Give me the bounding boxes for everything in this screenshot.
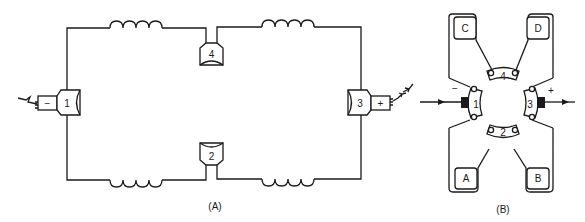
coil-bottom-right <box>262 179 314 186</box>
brush-b-3-contact <box>537 97 545 108</box>
caption-a: (A) <box>208 201 221 212</box>
brush-b-2: 2 <box>487 125 519 138</box>
output-arrow-head <box>562 99 569 105</box>
coil-top-left <box>110 21 162 28</box>
wire-bottom-left <box>67 115 110 180</box>
panel-a: 4 2 − 1 3 + (A) <box>18 20 406 212</box>
terminal-a: A <box>449 120 489 192</box>
commutator <box>483 83 523 123</box>
terminal-a-label: A <box>463 173 470 184</box>
brush-4-label: 4 <box>209 49 215 60</box>
input-arrow-head <box>438 99 445 105</box>
brush-b-3-label: 3 <box>527 99 533 110</box>
wire-to-brush2-left <box>162 165 206 180</box>
wire-bottom-right <box>314 113 361 179</box>
terminal-c-label: C <box>461 23 468 34</box>
coil-top-right <box>262 20 314 27</box>
figure-canvas: 4 2 − 1 3 + (A) <box>0 0 585 222</box>
brush-2-label: 2 <box>209 151 215 162</box>
caption-b: (B) <box>496 204 509 215</box>
wire-top-left <box>67 28 110 95</box>
terminal-b-label: B <box>535 173 542 184</box>
brush-b-2-label: 2 <box>500 127 506 138</box>
brush-3: 3 + <box>348 90 406 115</box>
brush-1-polarity: − <box>45 98 51 109</box>
brush-4: 4 <box>200 43 223 65</box>
brush-3-polarity: + <box>378 98 384 109</box>
panel-b: C D A B 4 <box>403 14 575 215</box>
brush-b-1: 1 − <box>420 83 482 120</box>
wire-from-brush4-right <box>217 27 262 43</box>
polarity-positive: + <box>548 85 554 96</box>
brush-b-3: 3 + <box>524 85 575 120</box>
brush-b-4-label: 4 <box>500 71 506 82</box>
terminal-d-label: D <box>534 23 541 34</box>
brush-b-4: 4 <box>487 68 519 83</box>
terminal-c: C <box>449 14 492 87</box>
lead-wire-positive <box>393 93 406 101</box>
brush-1-label: 1 <box>64 98 70 109</box>
wire-to-brush4-left <box>162 28 206 43</box>
brush-b-1-contact <box>461 97 469 108</box>
brush-1: − 1 <box>18 90 80 115</box>
terminal-b: B <box>514 120 553 192</box>
terminal-d: D <box>516 14 553 87</box>
polarity-negative: − <box>452 83 458 94</box>
brush-3-label: 3 <box>357 98 363 109</box>
coil-bottom-left <box>110 180 162 187</box>
brush-b-1-label: 1 <box>473 99 479 110</box>
wire-from-brush2-right <box>217 165 262 179</box>
brush-2: 2 <box>200 143 223 165</box>
lead-wire-negative <box>18 97 37 104</box>
wire-top-right <box>314 27 361 90</box>
